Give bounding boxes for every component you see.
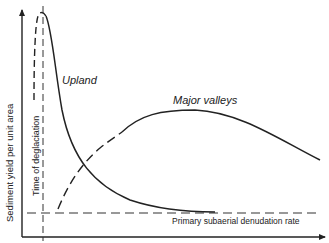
deglaciation-label: Time of deglaciation	[31, 116, 41, 196]
upland-curve-label: Upland	[62, 74, 97, 86]
y-axis-label: Sediment yield per unit area	[4, 104, 15, 222]
major-valleys-curve-rise	[58, 132, 122, 209]
major-valleys-curve-label: Major valleys	[173, 94, 237, 106]
diagram-canvas	[0, 0, 329, 243]
major-valleys-curve-main	[122, 110, 320, 160]
denudation-baseline-label: Primary subaerial denudation rate	[172, 216, 300, 226]
upland-curve-rise	[34, 13, 46, 100]
